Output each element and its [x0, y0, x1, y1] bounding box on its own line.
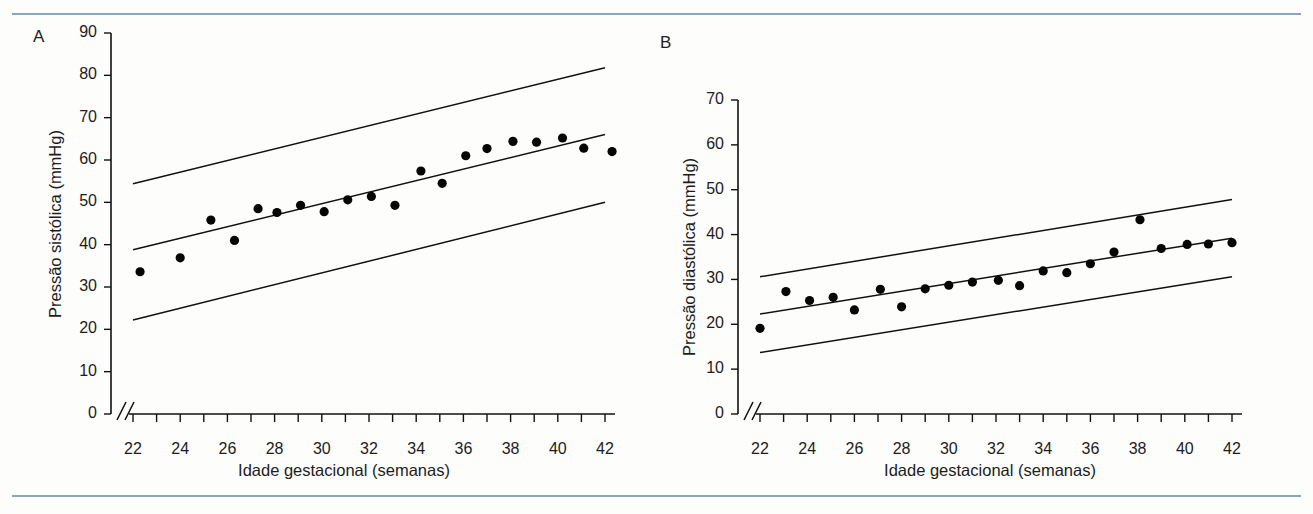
data-point: [206, 216, 215, 225]
y-tick-label: 30: [63, 277, 97, 295]
x-tick-label: 32: [353, 440, 385, 458]
x-tick-label: 26: [211, 440, 243, 458]
data-point: [1109, 247, 1118, 256]
data-point: [438, 179, 447, 188]
x-tick-label: 28: [886, 440, 918, 458]
data-point: [272, 208, 281, 217]
x-tick-label: 42: [1216, 440, 1248, 458]
x-tick-label: 36: [447, 440, 479, 458]
y-tick-label: 40: [63, 235, 97, 253]
data-point: [390, 201, 399, 210]
data-point: [944, 281, 953, 290]
data-point: [850, 305, 859, 314]
regression-line: [133, 135, 605, 250]
data-point: [508, 137, 517, 146]
data-point: [1227, 238, 1236, 247]
data-point: [367, 192, 376, 201]
data-point: [1157, 244, 1166, 253]
x-tick-label: 40: [1169, 440, 1201, 458]
data-point: [558, 133, 567, 142]
data-point: [176, 253, 185, 262]
y-tick-label: 20: [63, 319, 97, 337]
data-point: [1015, 281, 1024, 290]
data-point: [1039, 266, 1048, 275]
lower-limit-line: [760, 277, 1232, 353]
x-tick-label: 38: [495, 440, 527, 458]
figure-root: A Pressão sistólica (mmHg) Idade gestaci…: [0, 0, 1313, 514]
y-tick-label: 20: [690, 314, 724, 332]
y-tick-label: 60: [63, 150, 97, 168]
data-point: [230, 236, 239, 245]
x-tick-label: 26: [838, 440, 870, 458]
data-point: [579, 144, 588, 153]
x-tick-label: 30: [933, 440, 965, 458]
data-point: [1086, 259, 1095, 268]
panel-b: B Pressão diastólica (mmHg) Idade gestac…: [650, 0, 1313, 514]
x-tick-label: 24: [164, 440, 196, 458]
y-tick-label: 0: [690, 404, 724, 422]
y-tick-label: 70: [690, 90, 724, 108]
y-tick-label: 10: [63, 362, 97, 380]
data-point: [1204, 239, 1213, 248]
x-tick-label: 24: [791, 440, 823, 458]
x-tick-label: 36: [1074, 440, 1106, 458]
data-point: [461, 151, 470, 160]
data-point: [968, 278, 977, 287]
x-tick-label: 40: [542, 440, 574, 458]
panel-a-plot: [0, 0, 660, 514]
panel-b-plot: [650, 0, 1313, 514]
panel-a: A Pressão sistólica (mmHg) Idade gestaci…: [0, 0, 660, 514]
x-tick-label: 28: [259, 440, 291, 458]
data-point: [781, 287, 790, 296]
data-point: [253, 204, 262, 213]
y-tick-label: 70: [63, 108, 97, 126]
data-point: [755, 324, 764, 333]
lower-limit-line: [133, 202, 605, 320]
x-tick-label: 42: [589, 440, 621, 458]
data-point: [876, 285, 885, 294]
y-tick-label: 60: [690, 135, 724, 153]
x-tick-label: 22: [744, 440, 776, 458]
data-point: [897, 302, 906, 311]
y-tick-label: 40: [690, 225, 724, 243]
y-tick-label: 50: [63, 192, 97, 210]
x-tick-label: 34: [1027, 440, 1059, 458]
y-tick-label: 80: [63, 65, 97, 83]
data-point: [296, 201, 305, 210]
data-point: [1183, 240, 1192, 249]
x-tick-label: 30: [306, 440, 338, 458]
data-point: [532, 138, 541, 147]
upper-limit-line: [133, 68, 605, 184]
y-tick-label: 30: [690, 269, 724, 287]
data-point: [320, 207, 329, 216]
upper-limit-line: [760, 200, 1232, 277]
x-tick-label: 32: [980, 440, 1012, 458]
data-point: [135, 267, 144, 276]
x-tick-label: 38: [1122, 440, 1154, 458]
data-point: [805, 296, 814, 305]
x-tick-label: 34: [400, 440, 432, 458]
y-tick-label: 50: [690, 180, 724, 198]
y-tick-label: 10: [690, 359, 724, 377]
y-tick-label: 0: [63, 404, 97, 422]
data-point: [1062, 268, 1071, 277]
data-point: [994, 276, 1003, 285]
data-point: [1135, 215, 1144, 224]
data-point: [921, 284, 930, 293]
data-point: [416, 166, 425, 175]
data-point: [343, 195, 352, 204]
data-point: [607, 147, 616, 156]
data-point: [482, 144, 491, 153]
y-tick-label: 90: [63, 23, 97, 41]
data-point: [829, 293, 838, 302]
x-tick-label: 22: [117, 440, 149, 458]
